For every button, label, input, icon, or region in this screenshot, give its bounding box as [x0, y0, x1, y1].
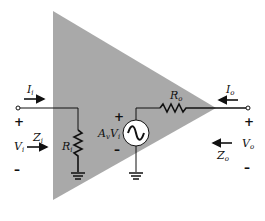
output-voltage-label: Vo: [242, 137, 254, 151]
input-voltage-label: Vi: [14, 140, 24, 154]
ground-icon: [129, 173, 143, 179]
input-minus-sign: –: [14, 163, 20, 177]
output-minus-sign: –: [244, 161, 250, 175]
output-terminal[interactable]: [246, 106, 250, 110]
input-plus-sign: +: [14, 115, 24, 129]
amplifier-diagram: Ii + Vi Zi – Ri + AvVi – Ro Io + Vo Zo –: [0, 0, 265, 221]
output-plus-sign: +: [244, 115, 254, 129]
source-plus-sign: +: [114, 110, 124, 124]
input-impedance-label: Zi: [32, 131, 43, 145]
input-terminal[interactable]: [16, 106, 20, 110]
input-current-label: Ii: [26, 83, 34, 97]
output-current-label: Io: [225, 83, 235, 97]
source-minus-sign: –: [114, 143, 120, 157]
output-impedance-label: Zo: [216, 149, 229, 163]
